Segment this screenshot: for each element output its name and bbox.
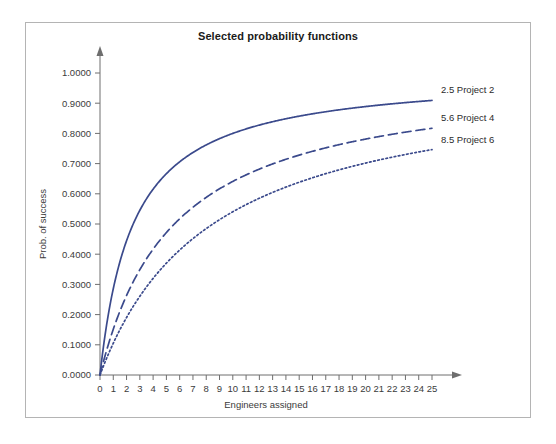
x-tick-label: 10 xyxy=(228,383,239,394)
x-tick-label: 12 xyxy=(254,383,265,394)
x-tick-label: 21 xyxy=(374,383,385,394)
x-tick-label: 24 xyxy=(413,383,424,394)
y-tick-label: 0.0000 xyxy=(62,369,91,380)
x-tick-label: 15 xyxy=(294,383,305,394)
chart-page: Selected probability functions 0.00000.1… xyxy=(0,0,556,444)
series-labels: 2.5 Project 25.6 Project 48.5 Project 6 xyxy=(441,84,494,144)
x-tick-label: 13 xyxy=(267,383,278,394)
series-label-1: 2.5 Project 2 xyxy=(441,84,494,95)
y-tick-label: 0.1000 xyxy=(62,339,91,350)
x-tick-label: 5 xyxy=(164,383,169,394)
y-tick-label: 0.6000 xyxy=(62,188,91,199)
x-axis-title: Engineers assigned xyxy=(224,399,307,410)
x-tick-label: 2 xyxy=(124,383,129,394)
x-tick-label: 3 xyxy=(137,383,142,394)
y-tick-label: 0.8000 xyxy=(62,128,91,139)
series-line-2 xyxy=(100,128,432,375)
chart-plot-area: 0.00000.10000.20000.30000.40000.50000.60… xyxy=(0,0,556,444)
series-curves xyxy=(100,100,432,375)
x-tick-label: 1 xyxy=(111,383,116,394)
y-tick-label: 0.5000 xyxy=(62,218,91,229)
x-tick-label: 19 xyxy=(347,383,358,394)
series-line-1 xyxy=(100,100,432,375)
x-tick-label: 6 xyxy=(177,383,182,394)
y-tick-label: 0.2000 xyxy=(62,309,91,320)
y-tick-label: 0.3000 xyxy=(62,279,91,290)
series-label-3: 8.5 Project 6 xyxy=(441,134,494,145)
series-line-3 xyxy=(100,150,432,375)
x-tick-label: 18 xyxy=(334,383,345,394)
y-tick-label: 0.9000 xyxy=(62,98,91,109)
x-tick-label: 11 xyxy=(241,383,251,394)
x-tick-label: 4 xyxy=(150,383,155,394)
y-tick-label: 1.0000 xyxy=(62,67,91,78)
x-tick-label: 7 xyxy=(190,383,195,394)
y-tick-label: 0.4000 xyxy=(62,249,91,260)
x-tick-label: 0 xyxy=(97,383,102,394)
x-tick-label: 16 xyxy=(307,383,318,394)
x-tick-label: 23 xyxy=(400,383,411,394)
y-tick-label: 0.7000 xyxy=(62,158,91,169)
x-axis: 0123456789101112131415161718192021222324… xyxy=(97,372,462,395)
x-tick-label: 17 xyxy=(320,383,331,394)
x-tick-label: 22 xyxy=(387,383,398,394)
x-tick-label: 20 xyxy=(360,383,371,394)
y-axis: 0.00000.10000.20000.30000.40000.50000.60… xyxy=(62,46,104,380)
x-tick-label: 25 xyxy=(427,383,438,394)
x-tick-label: 9 xyxy=(217,383,222,394)
y-axis-title: Prob. of success xyxy=(37,189,48,259)
series-label-2: 5.6 Project 4 xyxy=(441,112,494,123)
x-tick-label: 8 xyxy=(204,383,209,394)
x-tick-label: 14 xyxy=(281,383,292,394)
